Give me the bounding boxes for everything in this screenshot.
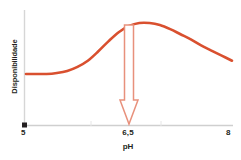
- x-axis-tick-label-6-5: 6,5: [118, 128, 138, 137]
- origin-marker: [22, 123, 27, 128]
- x-axis-title: pH: [108, 142, 148, 151]
- x-axis-tick-label-5: 5: [21, 128, 26, 137]
- ph-availability-chart: 5 6,5 8 pH Disponibilidade: [0, 0, 241, 160]
- y-axis-title: Disponibilidade: [10, 26, 19, 108]
- x-axis-tick-label-8: 8: [226, 128, 231, 137]
- optimum-ph-arrow: [120, 25, 138, 124]
